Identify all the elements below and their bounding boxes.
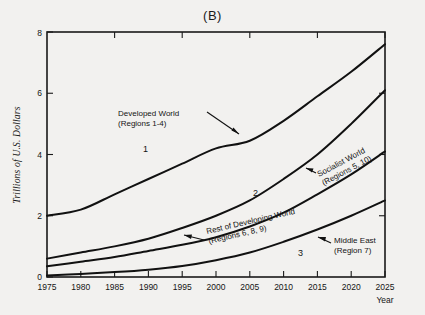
y-tick-4: 4 [37,150,42,160]
annotation-middle-east-line1: Middle East [334,236,377,245]
x-tick-2010: 2010 [274,282,293,292]
x-tick-labels: 1975 1980 1985 1990 1995 2000 2005 2010 … [38,282,395,292]
x-tick-1980: 1980 [71,282,90,292]
annotation-developed-world-line2: (Regions 1-4) [118,119,167,128]
y-tick-2: 2 [37,211,42,221]
annotation-middle-east-line2: (Region 7) [334,246,372,255]
x-tick-2005: 2005 [240,282,259,292]
annotation-rest-developing: Rest of Developing World (Regions 6, 8, … [205,207,298,246]
x-tick-2025: 2025 [376,282,395,292]
arrowhead-developed-world [232,128,240,135]
annotation-socialist-world: Socialist World (Regions 5, 10) [316,145,374,188]
y-tick-8: 8 [37,28,42,38]
arrowhead-middle-east [318,237,326,242]
arrowhead-socialist-world [306,168,314,173]
x-tick-2020: 2020 [342,282,361,292]
x-tick-2000: 2000 [207,282,226,292]
chart-svg: 0 2 4 6 8 1975 1980 1985 1990 1995 2000 … [0,0,425,315]
x-tick-1985: 1985 [105,282,124,292]
chart-page: (B) [0,0,425,315]
y-tick-0: 0 [37,272,42,282]
x-tick-1990: 1990 [139,282,158,292]
arrowhead-rest-developing [184,235,192,240]
annotation-middle-east: Middle East (Region 7) [334,236,377,255]
x-tick-1995: 1995 [173,282,192,292]
y-tick-labels: 0 2 4 6 8 [37,28,42,283]
annotation-developed-world: Developed World (Regions 1-4) [118,109,239,134]
x-axis-title: Year [376,295,393,305]
x-tick-2015: 2015 [308,282,327,292]
annotation-developed-world-line1: Developed World [118,109,179,118]
y-tick-6: 6 [37,88,42,98]
x-tick-1975: 1975 [38,282,57,292]
y-axis-title: Trillions of U.S. Dollars [12,106,22,203]
curve-label-2: 2 [253,188,258,198]
curve-label-1: 1 [143,144,148,154]
series-line-developed-world [47,44,385,216]
curve-label-3: 3 [298,248,303,258]
